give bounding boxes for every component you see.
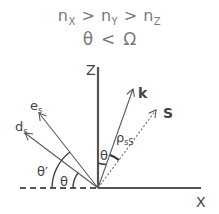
theta-label-z-k: θ: [100, 148, 108, 163]
rho-label: ρsS: [116, 130, 134, 147]
s-label: S: [163, 105, 173, 121]
ds-label: ds: [15, 119, 27, 136]
x-axis-label: X: [196, 194, 206, 210]
theta-arc-ds: [73, 173, 78, 188]
z-axis-label: Z: [86, 62, 96, 78]
theta-label-ds: θ: [60, 174, 68, 189]
rho-arc-k-s: [110, 155, 119, 160]
theta-arc-z-k: [98, 163, 107, 165]
theta-prime-label: θ′: [37, 164, 48, 179]
vector-diagram: Z X k S es ds θ ρsS θ θ′: [0, 0, 219, 214]
k-label: k: [138, 85, 148, 101]
es-label: es: [30, 98, 42, 115]
